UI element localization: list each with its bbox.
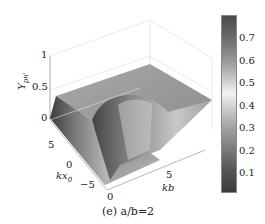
colorbar-tick-0.4: 0.4	[239, 101, 255, 111]
y-tick-neg5: −5	[80, 180, 95, 190]
x-tick-0: 0	[107, 192, 113, 202]
colorbar-tick-0.1: 0.1	[239, 168, 255, 178]
colorbar	[221, 15, 237, 193]
figure-caption: (e) a/b=2	[102, 205, 154, 218]
surface-ridge	[92, 95, 212, 180]
x-axis-label: kb	[162, 182, 174, 193]
z-tick-0: 0	[41, 113, 47, 123]
z-tick-0.5: 0.5	[32, 82, 48, 92]
y-tick-0: 0	[66, 160, 72, 170]
colorbar-tick-0.6: 0.6	[239, 56, 255, 66]
colorbar-tick-0.2: 0.2	[239, 146, 255, 156]
colorbar-tick-0.3: 0.3	[239, 123, 255, 133]
colorbar-tick-0.7: 0.7	[239, 33, 255, 43]
y-tick-5: 5	[48, 140, 54, 150]
x-tick-5: 5	[166, 170, 172, 180]
z-tick-1: 1	[41, 50, 47, 60]
colorbar-tick-0.5: 0.5	[239, 78, 255, 88]
y-axis-label: kx0	[56, 170, 72, 184]
z-axis-label: Ypn'	[16, 72, 30, 90]
